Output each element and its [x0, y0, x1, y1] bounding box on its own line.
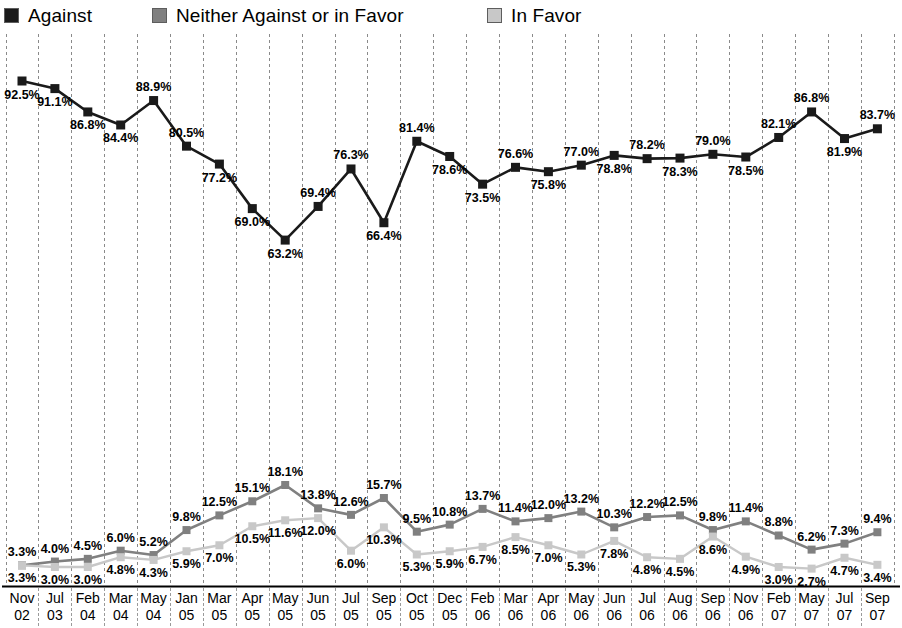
data-point-marker	[610, 523, 618, 531]
data-label: 86.8%	[794, 92, 829, 105]
data-point-marker	[610, 151, 619, 160]
data-point-marker	[18, 77, 27, 86]
legend-item-neither: Neither Against or in Favor	[152, 2, 404, 28]
data-point-marker	[841, 540, 849, 548]
data-label: 78.5%	[728, 165, 763, 178]
data-label: 4.8%	[106, 564, 135, 577]
data-label: 92.5%	[4, 89, 39, 102]
data-label: 18.1%	[267, 466, 302, 479]
data-label: 11.4%	[728, 502, 763, 515]
data-point-marker	[511, 163, 520, 172]
data-label: 3.3%	[8, 572, 37, 585]
data-label: 4.9%	[732, 564, 761, 577]
data-point-marker	[281, 481, 289, 489]
data-point-marker	[215, 511, 223, 519]
data-label: 78.2%	[629, 139, 664, 152]
legend-label-neither: Neither Against or in Favor	[176, 6, 404, 25]
data-point-marker	[512, 517, 520, 525]
data-label: 7.0%	[534, 552, 563, 565]
data-label: 76.3%	[333, 149, 368, 162]
data-point-marker	[248, 497, 256, 505]
data-point-marker	[116, 120, 125, 129]
data-point-marker	[643, 154, 652, 163]
data-label: 79.0%	[695, 135, 730, 148]
data-label: 66.4%	[366, 230, 401, 243]
data-label: 12.0%	[531, 499, 566, 512]
data-label: 4.7%	[830, 565, 859, 578]
data-point-marker	[479, 543, 487, 551]
x-axis: Nov02Jul03Feb04Mar04May04Jan05Mar05Apr05…	[0, 586, 902, 628]
data-point-marker	[84, 555, 92, 563]
data-point-marker	[775, 563, 783, 571]
data-point-marker	[412, 137, 421, 146]
data-label: 73.5%	[465, 192, 500, 205]
data-label: 81.9%	[827, 146, 862, 159]
data-point-marker	[478, 180, 487, 189]
data-label: 81.4%	[399, 122, 434, 135]
legend-item-in-favor: In Favor	[487, 2, 582, 28]
data-point-marker	[183, 526, 191, 534]
data-point-marker	[248, 522, 256, 530]
data-label: 15.7%	[366, 479, 401, 492]
data-point-marker	[182, 142, 191, 151]
data-point-marker	[83, 107, 92, 116]
data-point-marker	[183, 547, 191, 555]
data-point-marker	[808, 565, 816, 573]
data-label: 78.8%	[596, 163, 631, 176]
chart-root: Against Neither Against or in Favor In F…	[0, 0, 902, 628]
chart-legend: Against Neither Against or in Favor In F…	[0, 0, 902, 34]
data-label: 8.6%	[699, 544, 728, 557]
data-label: 12.5%	[662, 496, 697, 509]
data-point-marker	[676, 555, 684, 563]
data-point-marker	[610, 537, 618, 545]
data-label: 4.8%	[633, 564, 662, 577]
data-point-marker	[676, 154, 685, 163]
data-point-marker	[446, 521, 454, 529]
data-label: 4.5%	[666, 566, 695, 579]
data-point-marker	[150, 556, 158, 564]
data-label: 13.8%	[300, 489, 335, 502]
data-point-marker	[215, 160, 224, 169]
data-point-marker	[413, 528, 421, 536]
x-tick-month: Sep	[855, 590, 899, 607]
data-label: 78.6%	[432, 164, 467, 177]
data-label: 83.7%	[860, 109, 895, 122]
data-label: 69.4%	[300, 187, 335, 200]
data-point-marker	[51, 563, 59, 571]
legend-item-against: Against	[4, 2, 92, 28]
data-point-marker	[840, 134, 849, 143]
data-point-marker	[775, 531, 783, 539]
data-label: 6.7%	[468, 554, 497, 567]
data-point-marker	[742, 517, 750, 525]
data-point-marker	[281, 516, 289, 524]
data-label: 4.5%	[74, 540, 103, 553]
data-point-marker	[544, 167, 553, 176]
data-label: 12.2%	[629, 498, 664, 511]
data-point-marker	[248, 204, 257, 213]
legend-label-in-favor: In Favor	[511, 6, 582, 25]
data-point-marker	[873, 124, 882, 133]
data-label: 15.1%	[235, 482, 270, 495]
data-label: 84.4%	[103, 132, 138, 145]
data-label: 13.7%	[465, 490, 500, 503]
data-label: 10.3%	[596, 508, 631, 521]
data-label: 5.9%	[435, 558, 464, 571]
data-label: 5.3%	[403, 561, 432, 574]
data-label: 10.5%	[235, 533, 270, 546]
data-label: 7.3%	[830, 525, 859, 538]
data-label: 6.0%	[106, 532, 135, 545]
data-point-marker	[84, 563, 92, 571]
data-point-marker	[314, 504, 322, 512]
data-point-marker	[544, 541, 552, 549]
data-point-marker	[643, 553, 651, 561]
data-point-marker	[50, 84, 59, 93]
data-label: 78.3%	[662, 166, 697, 179]
data-label: 3.0%	[41, 574, 70, 587]
x-tick-year: 07	[855, 607, 899, 624]
data-point-marker	[643, 513, 651, 521]
data-label: 88.9%	[136, 81, 171, 94]
data-point-marker	[577, 161, 586, 170]
legend-label-against: Against	[28, 6, 92, 25]
data-label: 77.2%	[202, 172, 237, 185]
data-point-marker	[314, 202, 323, 211]
